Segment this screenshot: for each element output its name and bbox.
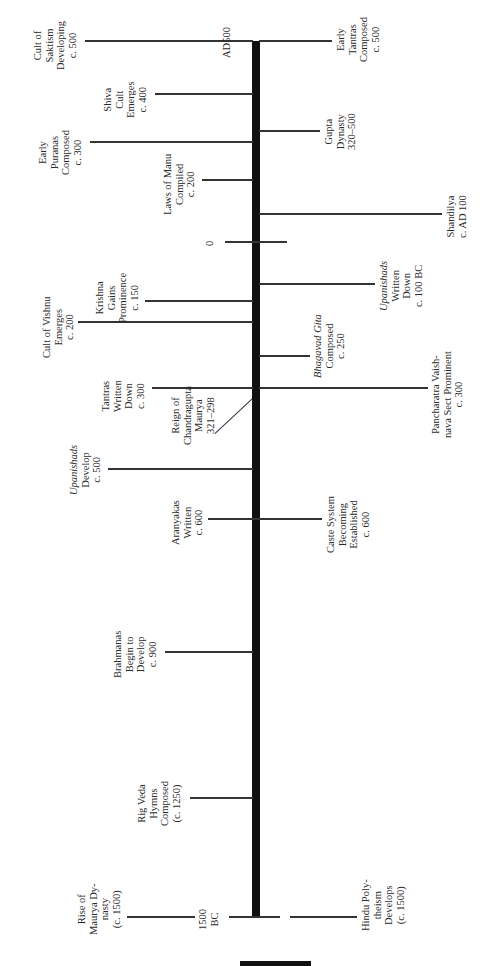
- label-upan-develop: Upanishads Develop c. 500: [68, 445, 103, 495]
- tick-upan-written: [259, 283, 375, 285]
- label-chandragupta: Reign of Chandragupta Maurya 321–298: [170, 386, 216, 445]
- tick-gita: [259, 355, 310, 357]
- tick-aranyakas-caste: [208, 518, 322, 520]
- label-tantras-written: Tantras Written Down c. 300: [100, 380, 146, 412]
- label-polytheism: Hindu Poly- theism Develops (c. 1500): [360, 879, 406, 931]
- leader-chandragupta: [215, 398, 253, 434]
- label-tantras-early: Early Tantras Composed c. 500: [335, 17, 381, 62]
- label-saktism: Cult of Saktism Developing c. 500: [32, 21, 78, 70]
- tick-maurya: [127, 916, 195, 918]
- footer-block: [240, 961, 311, 966]
- tick-zero: [225, 241, 287, 243]
- tick-brahmanas: [165, 651, 253, 653]
- label-bc1500: 1500 BC: [197, 909, 220, 930]
- label-maurya: Rise of Maurya Dy- nasty (c. 1500): [76, 883, 122, 935]
- label-vishnu: Cult of Vishnu Emerges c. 200: [41, 296, 76, 358]
- label-brahmanas: Brahmanas Begin to Develop c. 900: [112, 631, 158, 678]
- label-shandilya: Shandilya c. AD 100: [445, 195, 468, 238]
- tick-gupta: [259, 130, 320, 132]
- label-puranas: Early Puranas Composed c. 300: [37, 130, 83, 175]
- label-caste: Caste System Becoming Established c. 600: [325, 496, 371, 553]
- tick-manu: [202, 179, 253, 181]
- label-manu: Laws of Manu Compiled c. 200: [162, 154, 197, 215]
- label-ad500: AD500: [221, 27, 233, 58]
- tick-ad500-right: [259, 40, 332, 42]
- tick-shiva: [155, 93, 253, 95]
- label-zero: 0: [204, 241, 216, 246]
- tick-krishna: [145, 300, 253, 302]
- tick-upan-develop: [108, 468, 253, 470]
- label-shiva: Shiva Cult Emerges c. 400: [102, 81, 148, 118]
- tick-rigveda: [190, 797, 253, 799]
- tick-pancharatra: [259, 387, 428, 389]
- label-aranyakas: Aranyakas Written c. 600: [170, 500, 205, 545]
- tick-shandilya: [259, 213, 442, 215]
- tick-bc1500: [229, 916, 280, 918]
- label-krishna: Krishna Gains Prominence c. 150: [94, 273, 140, 323]
- label-gupta: Gupta Dynasty 320–500: [323, 113, 358, 150]
- label-rigveda: Rig Veda Hymns Composed (c. 1250): [136, 781, 182, 826]
- tick-polytheism: [290, 916, 357, 918]
- label-pancharatra: Pancharatra Vaish- nava Sect Prominent c…: [430, 351, 465, 438]
- label-gita: Bhagavad Gita Composed c. 250: [312, 314, 347, 378]
- timeline-axis: [252, 41, 260, 918]
- tick-puranas: [90, 141, 253, 143]
- label-upan-written: Upanishads Written Down c. 100 BC: [378, 261, 424, 311]
